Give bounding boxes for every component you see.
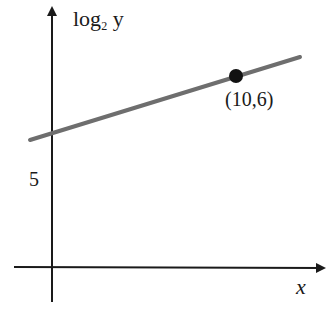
x-axis-label: x [296,274,306,300]
x-axis [14,267,324,268]
plot-canvas [0,0,334,316]
y-axis-label: log2 y [73,6,124,34]
data-point [229,69,243,83]
y-tick-5: 5 [29,168,39,191]
point-label: (10,6) [225,88,273,111]
